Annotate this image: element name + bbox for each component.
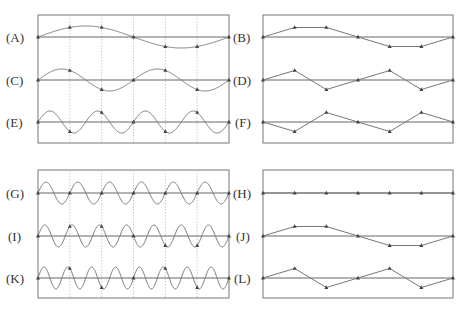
label-L: (L) (234, 272, 251, 285)
label-D: (D) (233, 74, 251, 87)
sample-point (419, 110, 423, 114)
sample-point (293, 266, 297, 270)
label-J: (J) (236, 230, 250, 243)
aliasing-figure (0, 0, 465, 312)
label-I: (I) (8, 230, 21, 243)
sample-point (324, 110, 328, 114)
label-C: (C) (6, 74, 23, 87)
label-B: (B) (233, 31, 250, 44)
label-H: (H) (233, 187, 251, 200)
label-A: (A) (6, 31, 24, 44)
label-K: (K) (6, 272, 24, 285)
label-E: (E) (6, 116, 23, 129)
sample-point (388, 68, 392, 72)
label-F: (F) (235, 116, 251, 129)
sample-point (388, 266, 392, 270)
label-G: (G) (6, 187, 24, 200)
sample-point (293, 68, 297, 72)
